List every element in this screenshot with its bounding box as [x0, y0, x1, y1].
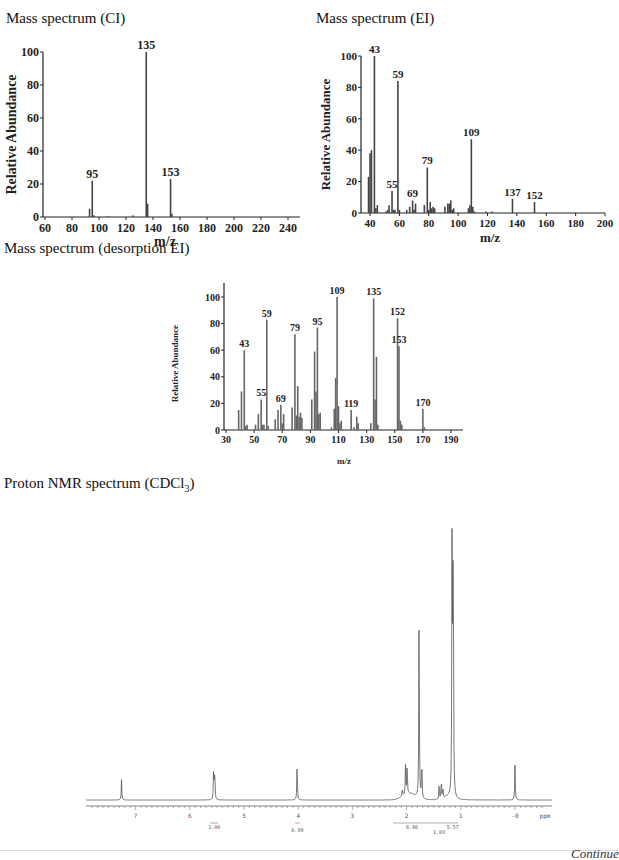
ci-xtick-label: 200: [225, 221, 243, 235]
ei-ytick-label: 100: [341, 50, 358, 62]
ei-peak-label: 137: [504, 186, 521, 198]
desorption-ei-xtick-label: 110: [331, 434, 345, 445]
ei-xtick-label: 120: [479, 217, 496, 229]
desorption-ei-xtick-label: 30: [221, 434, 231, 445]
nmr-integral-value: 8.96: [406, 824, 418, 830]
ci-peak-label: 135: [137, 38, 155, 52]
ei-xtick-label: 160: [538, 217, 555, 229]
nmr-tick-label: 1: [459, 812, 463, 819]
desorption-ei-xtick-label: 50: [249, 434, 259, 445]
ci-xtick-label: 80: [66, 221, 78, 235]
desorption-ei-ytick-label: 40: [210, 371, 220, 382]
ei-xtick-label: 180: [567, 217, 584, 229]
nmr-tick-label: 3: [351, 812, 355, 819]
ei-xtick-label: 200: [597, 217, 614, 229]
desorption-ei-peak-label: 153: [391, 334, 406, 345]
desorption-ei-peak-label: 95: [312, 316, 322, 327]
ci-y-axis-title: Relative Abundance: [4, 74, 19, 194]
desorption-ei-peak-label: 59: [262, 308, 272, 319]
ci-xtick-label: 60: [39, 221, 51, 235]
desorption-ei-peak-label: 43: [239, 338, 249, 349]
ei-ytick-label: 40: [346, 144, 358, 156]
ci-peak-label: 153: [162, 165, 180, 179]
ei-peak-label: 69: [407, 187, 419, 199]
desorption-ei-xtick-label: 130: [359, 434, 374, 445]
ei-peak-label: 55: [387, 178, 399, 190]
desorption-ei-peak-label: 109: [330, 285, 345, 296]
nmr-integral-value: 1.00: [208, 824, 220, 830]
desorption-ei-peak-label: 55: [256, 387, 266, 398]
ei-peak-label: 59: [392, 68, 404, 80]
nmr-axis-unit: ppm: [540, 812, 551, 820]
ei-peak-label: 43: [369, 43, 381, 55]
desorption-ei-xtick-label: 170: [415, 434, 430, 445]
ei-xtick-label: 140: [509, 217, 526, 229]
nmr-tick-label: 7: [134, 812, 138, 819]
spectra-figure: 0204060801006080100120140160180200220240…: [0, 0, 619, 860]
ci-peak-label: 95: [86, 167, 98, 181]
desorption-ei-ytick-label: 100: [205, 292, 220, 303]
desorption-ei-y-axis-title: Relative Abundance: [170, 325, 180, 402]
ci-xtick-label: 220: [252, 221, 270, 235]
desorption-ei-x-axis-title: m/z: [337, 456, 351, 466]
ci-ytick-label: 20: [27, 177, 39, 191]
desorption-ei-ytick-label: 80: [210, 318, 220, 329]
nmr-integral-value: 0.99: [291, 827, 303, 833]
ci-ytick-label: 40: [27, 144, 39, 158]
ei-ytick-label: 20: [346, 175, 358, 187]
desorption-ei-xtick-label: 70: [277, 434, 287, 445]
desorption-ei-peak-label: 69: [276, 393, 286, 404]
ci-x-axis-title: m/z: [154, 234, 176, 249]
nmr-tick-label: 5: [242, 812, 246, 819]
nmr-tick-label: 6: [188, 812, 192, 819]
desorption-ei-ytick-label: 0: [215, 425, 220, 436]
ci-xtick-label: 160: [171, 221, 189, 235]
ci-ytick-label: 100: [21, 45, 39, 59]
ci-ytick-label: 60: [27, 111, 39, 125]
ei-xtick-label: 40: [365, 217, 377, 229]
desorption-ei-peak-label: 79: [290, 322, 300, 333]
ci-ytick-label: 80: [27, 78, 39, 92]
ci-xtick-label: 180: [198, 221, 216, 235]
ei-xtick-label: 100: [450, 217, 467, 229]
desorption-ei-xtick-label: 150: [387, 434, 402, 445]
continued-label: Continued: [571, 846, 619, 860]
nmr-integral-value: 1.03: [433, 829, 445, 835]
ci-xtick-label: 120: [117, 221, 135, 235]
nmr-tick-label: 4: [296, 812, 300, 819]
nmr-tick-label: -0: [511, 812, 519, 819]
ei-ytick-label: 60: [346, 113, 358, 125]
desorption-ei-peak-label: 170: [415, 397, 430, 408]
desorption-ei-xtick-label: 190: [444, 434, 459, 445]
ei-peak-label: 109: [463, 126, 480, 138]
desorption-ei-peak-label: 152: [390, 306, 405, 317]
ci-xtick-label: 140: [144, 221, 162, 235]
desorption-ei-peak-label: 119: [344, 398, 358, 409]
nmr-tick-label: 2: [405, 812, 409, 819]
ei-xtick-label: 60: [394, 217, 406, 229]
desorption-ei-ytick-label: 60: [210, 345, 220, 356]
footer-divider: [0, 850, 619, 851]
ei-ytick-label: 80: [346, 81, 358, 93]
ei-xtick-label: 80: [423, 217, 435, 229]
ei-peak-label: 152: [526, 189, 543, 201]
ci-xtick-label: 100: [90, 221, 108, 235]
ci-xtick-label: 240: [279, 221, 297, 235]
ei-peak-label: 79: [422, 154, 434, 166]
nmr-integral-value: 5.57: [447, 824, 459, 830]
desorption-ei-xtick-label: 90: [305, 434, 315, 445]
desorption-ei-ytick-label: 20: [210, 398, 220, 409]
nmr-spectrum-trace: [86, 528, 552, 800]
ei-y-axis-title: Relative Abundance: [318, 78, 333, 190]
ei-ytick-label: 0: [352, 207, 358, 219]
ei-x-axis-title: m/z: [480, 230, 500, 245]
desorption-ei-peak-label: 135: [366, 286, 381, 297]
